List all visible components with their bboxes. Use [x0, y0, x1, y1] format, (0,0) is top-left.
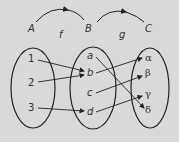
set-label-C: C — [145, 23, 152, 34]
arrow-c-to-beta — [96, 76, 142, 93]
element-b: b — [87, 67, 93, 78]
element-3: 3 — [28, 102, 34, 113]
function-label-f: f — [59, 29, 64, 40]
arrow-d-to-gamma — [96, 96, 142, 112]
set-label-A: A — [27, 23, 35, 34]
element-c: c — [87, 87, 93, 98]
element-1: 1 — [28, 53, 34, 64]
element-a: a — [87, 50, 93, 61]
set-label-B: B — [85, 23, 92, 34]
element-d: d — [87, 106, 94, 117]
arrow-1-to-b — [38, 60, 84, 71]
g-curve-tail — [126, 12, 144, 22]
element-2: 2 — [28, 77, 34, 88]
element-beta: β — [145, 67, 151, 78]
f-curve-tail — [68, 10, 84, 20]
g-curve-arrow — [97, 11, 126, 22]
f-curve-arrow — [36, 9, 68, 22]
function-label-g: g — [119, 29, 125, 40]
arrow-2-to-b — [38, 75, 84, 82]
element-alpha: α — [145, 52, 152, 63]
element-gamma: γ — [145, 88, 151, 99]
arrow-3-to-d — [38, 108, 84, 111]
function-diagram: A B C f g 1 2 3 a b c d α β γ δ — [0, 0, 179, 142]
arrow-b-to-alpha — [96, 58, 142, 73]
arrow-a-to-delta — [96, 57, 144, 108]
element-delta: δ — [145, 104, 151, 115]
